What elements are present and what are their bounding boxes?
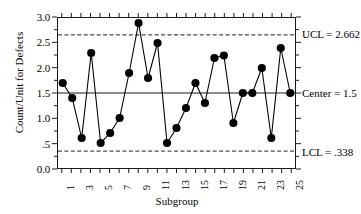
x-tick-label: 21 xyxy=(257,180,267,190)
x-tick-label: 23 xyxy=(276,180,286,190)
x-tick-label: 7 xyxy=(123,185,133,190)
x-tick-label: 1 xyxy=(66,185,76,190)
control-chart: Count/Unit for Defects 0.0.51.01.52.02.5… xyxy=(0,0,361,214)
x-tick-label: 3 xyxy=(85,185,95,190)
limit-label-ucl: UCL = 2.662 xyxy=(302,29,360,40)
x-axis-title: Subgroup xyxy=(97,196,257,207)
x-axis-tick-labels: 135791113151719212325 xyxy=(57,170,296,194)
x-tick-label: 5 xyxy=(104,185,114,190)
x-tick-label: 19 xyxy=(238,180,248,190)
limit-label-lcl: LCL = .338 xyxy=(302,146,353,157)
limit-label-center: Center = 1.5 xyxy=(302,88,357,99)
x-tick-label: 17 xyxy=(219,180,229,190)
x-tick-label: 13 xyxy=(181,180,191,190)
x-tick-label: 25 xyxy=(295,180,305,190)
x-tick-label: 15 xyxy=(200,180,210,190)
x-tick-label: 9 xyxy=(142,185,152,190)
x-tick-label: 11 xyxy=(161,180,171,190)
